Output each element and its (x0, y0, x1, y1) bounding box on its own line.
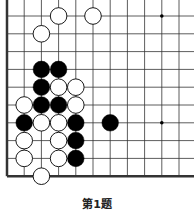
black-stone (50, 97, 67, 114)
black-stone (68, 115, 85, 132)
white-stone (33, 115, 50, 132)
white-stone (50, 8, 67, 25)
white-stone (50, 79, 67, 96)
white-stone (16, 97, 33, 114)
white-stone (16, 150, 33, 167)
white-stone (68, 97, 85, 114)
black-stone (68, 150, 85, 167)
white-stone (16, 132, 33, 149)
star-point (160, 14, 164, 18)
white-stone (50, 150, 67, 167)
go-board (0, 0, 194, 190)
black-stone (68, 132, 85, 149)
white-stone (85, 8, 102, 25)
black-stone (33, 97, 50, 114)
problem-caption: 第1题 (0, 195, 194, 210)
black-stone (33, 61, 50, 78)
white-stone (33, 26, 50, 43)
star-point (160, 121, 164, 125)
black-stone (102, 115, 119, 132)
white-stone (68, 79, 85, 96)
black-stone (16, 115, 33, 132)
white-stone (50, 132, 67, 149)
black-stone (33, 79, 50, 96)
white-stone (33, 168, 50, 185)
black-stone (50, 61, 67, 78)
white-stone (50, 115, 67, 132)
